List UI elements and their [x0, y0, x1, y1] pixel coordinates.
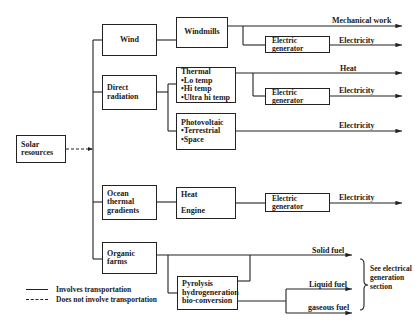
photovoltaic-item: •Space — [181, 136, 231, 145]
organic-farms-box: Organic farms — [102, 242, 157, 274]
wind-box: Wind — [102, 24, 157, 56]
electricity-label-wind: Electricity — [339, 36, 375, 45]
thermal-item: •Ultra hi temp — [181, 94, 231, 103]
liquid-fuel-label: Liquid fuel — [309, 280, 347, 289]
electric-generator-label: Electric generator — [272, 195, 308, 210]
legend-dashed: Does not involve transportation — [26, 295, 157, 304]
electric-generator-box-thermal: Electric generator — [265, 88, 330, 105]
electric-generator-label: Electric generator — [272, 89, 308, 104]
direct-radiation-box: Direct radiation — [102, 75, 157, 110]
organic-farms-label: Organic farms — [107, 250, 152, 267]
wind-label: Wind — [120, 36, 139, 45]
mechanical-work-label: Mechanical work — [332, 16, 391, 25]
thermal-box: Thermal •Lo temp •Hi temp •Ultra hi temp — [176, 67, 236, 103]
heat-engine-box: Heat Engine — [176, 187, 236, 219]
legend-dashed-label: Does not involve transportation — [56, 295, 157, 304]
electricity-label-thermal: Electricity — [339, 86, 375, 95]
windmills-box: Windmills — [176, 17, 228, 48]
solid-fuel-label: Solid fuel — [312, 246, 344, 255]
ocean-thermal-label: Ocean thermal gradients — [107, 190, 152, 216]
electricity-label-photovoltaic: Electricity — [339, 121, 375, 130]
electric-generator-box-ocean: Electric generator — [265, 193, 330, 212]
electric-generator-label: Electric generator — [272, 37, 308, 52]
solar-resources-box: Solar resources — [16, 135, 66, 163]
solid-line-icon — [26, 289, 48, 290]
electric-generator-box-wind: Electric generator — [265, 36, 330, 53]
heat-engine-line2: Engine — [181, 207, 231, 216]
solar-resources-label: Solar resources — [21, 141, 61, 158]
photovoltaic-box: Photovoltaic •Terrestrial •Space — [176, 113, 236, 150]
see-electrical-note: See electrical generation section — [370, 264, 414, 291]
heat-output-label: Heat — [340, 64, 356, 73]
ocean-thermal-box: Ocean thermal gradients — [102, 185, 157, 220]
heat-engine-line1: Heat — [181, 191, 231, 200]
gaseous-fuel-label: gaseous fuel — [308, 303, 349, 312]
pyrolysis-line: bio-conversion — [182, 297, 233, 306]
dashed-line-icon — [26, 299, 48, 300]
pyrolysis-box: Pyrolysis hydrogeneration bio-conversion — [177, 276, 238, 310]
windmills-label: Windmills — [184, 28, 219, 37]
legend-solid: Involves transportation — [26, 285, 131, 294]
direct-radiation-label: Direct radiation — [107, 84, 152, 101]
electricity-label-ocean: Electricity — [339, 193, 375, 202]
legend-solid-label: Involves transportation — [56, 285, 131, 294]
